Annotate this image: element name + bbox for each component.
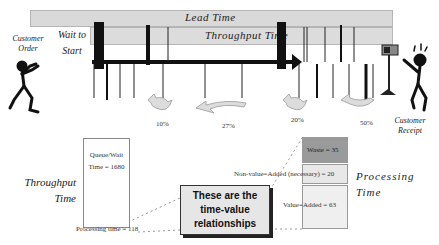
queue-wait-label: Queue/Wait Time = 1680 [84, 149, 129, 173]
waste-label: Waste = 35 [307, 146, 347, 154]
processing-time-heading: Processing Time [356, 168, 416, 200]
timeline-arrowhead-icon [292, 54, 302, 70]
customer-order-figure-icon [10, 62, 38, 112]
queue-wait-box: Queue/Wait Time = 1680 [83, 138, 130, 228]
throughput-time-heading: Throughput Time [18, 174, 76, 206]
percentage-label: 20% [291, 116, 304, 124]
percentage-label: 50% [360, 119, 373, 127]
rework-arrow-icon [341, 94, 374, 106]
value-added-label: Value=Added = 63 [283, 201, 336, 209]
rework-arrow-icon [148, 94, 172, 110]
processing-time-small-label: Processing time = 118 [76, 225, 138, 233]
wait-to-start-label: Wait to Start [50, 27, 94, 59]
time-value-callout: These are the time-value relationships [180, 185, 270, 235]
waste-box: Waste = 35 [302, 137, 348, 163]
customer-receipt-figure-icon [404, 44, 427, 110]
percentage-label: 27% [222, 122, 235, 130]
customer-order-label: Customer Order [6, 34, 50, 54]
non-value-added-label: Non-value=Added (necessary) = 20 [234, 170, 334, 178]
mailbox-icon [380, 45, 398, 95]
customer-receipt-label: Customer Receipt [382, 116, 438, 136]
rework-arrow-icon [283, 94, 307, 110]
percentage-label: 10% [156, 120, 169, 128]
rework-arrow-icon [196, 101, 246, 113]
